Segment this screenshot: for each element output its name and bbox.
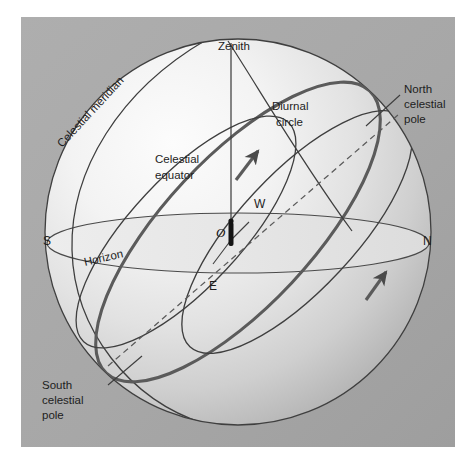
label-observer: O (216, 225, 226, 240)
label-zenith: Zenith (218, 40, 250, 52)
label-south-celestial-pole-line2: celestial (42, 394, 84, 406)
celestial-sphere-diagram: Zenith Diurnal circle North celestial po… (0, 0, 474, 462)
horizon-plane (47, 213, 429, 273)
label-cardinal-west: W (254, 197, 266, 211)
label-cardinal-south: S (43, 234, 51, 248)
label-diurnal-circle-line1: Diurnal (272, 100, 308, 112)
label-south-celestial-pole-line3: pole (42, 409, 64, 421)
label-celestial-equator-line2: equator (155, 169, 194, 181)
label-north-celestial-pole-line1: North (404, 83, 432, 95)
celestial-sphere-figure: Zenith Diurnal circle North celestial po… (0, 0, 474, 462)
label-celestial-equator-line1: Celestial (155, 153, 199, 165)
label-south-celestial-pole-line1: South (42, 379, 72, 391)
observer-figure (228, 218, 233, 246)
label-north-celestial-pole-line3: pole (404, 113, 426, 125)
label-cardinal-east: E (209, 279, 217, 293)
label-north-celestial-pole-line2: celestial (404, 98, 446, 110)
label-diurnal-circle-line2: circle (276, 116, 303, 128)
label-cardinal-north: N (423, 234, 432, 248)
